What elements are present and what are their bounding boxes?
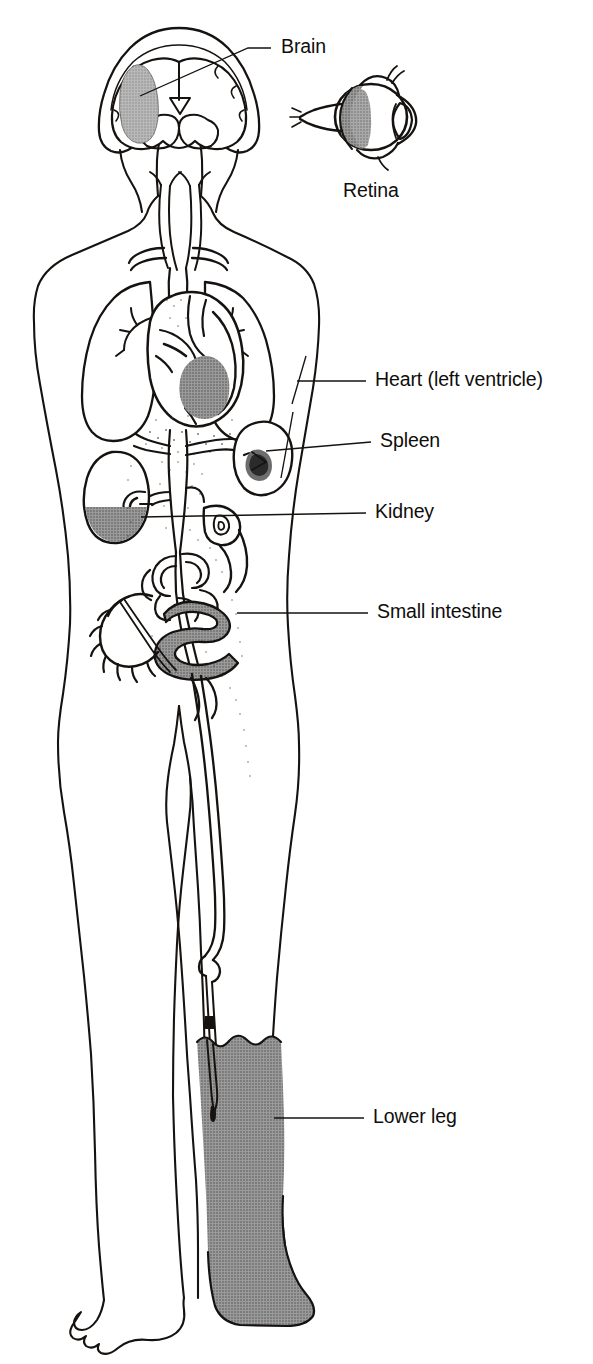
occlusion-marker: [205, 1016, 214, 1029]
thorax-section: [82, 248, 274, 455]
label-text-kidney: Kidney: [375, 500, 434, 522]
label-small-intestine[interactable]: Small intestine: [237, 600, 502, 622]
label-text-lower-leg: Lower leg: [373, 1105, 457, 1127]
heart-infarct-shade: [179, 356, 229, 419]
label-lower-leg[interactable]: Lower leg: [274, 1105, 457, 1127]
lower-leg-infarct-shade: [197, 1036, 314, 1326]
label-text-small-intestine: Small intestine: [377, 600, 502, 622]
abdomen-section: [78, 422, 292, 777]
label-text-spleen: Spleen: [380, 429, 440, 451]
label-retina[interactable]: Retina: [343, 179, 399, 201]
brain-section: [111, 45, 247, 212]
leader-line-kidney: [141, 513, 366, 517]
label-text-brain: Brain: [281, 35, 326, 57]
label-text-heart: Heart (left ventricle): [375, 368, 543, 390]
label-heart[interactable]: Heart (left ventricle): [292, 356, 543, 404]
label-text-retina: Retina: [343, 179, 399, 201]
anatomy-figure: Brain Retina Heart (left ventricle) Sple…: [0, 0, 593, 1364]
eye-section: [290, 66, 416, 170]
heart-leader-tick: [292, 356, 306, 404]
anatomy-illustration: Brain Retina Heart (left ventricle) Sple…: [0, 0, 593, 1364]
spleen-infarct-shade: [246, 449, 273, 481]
